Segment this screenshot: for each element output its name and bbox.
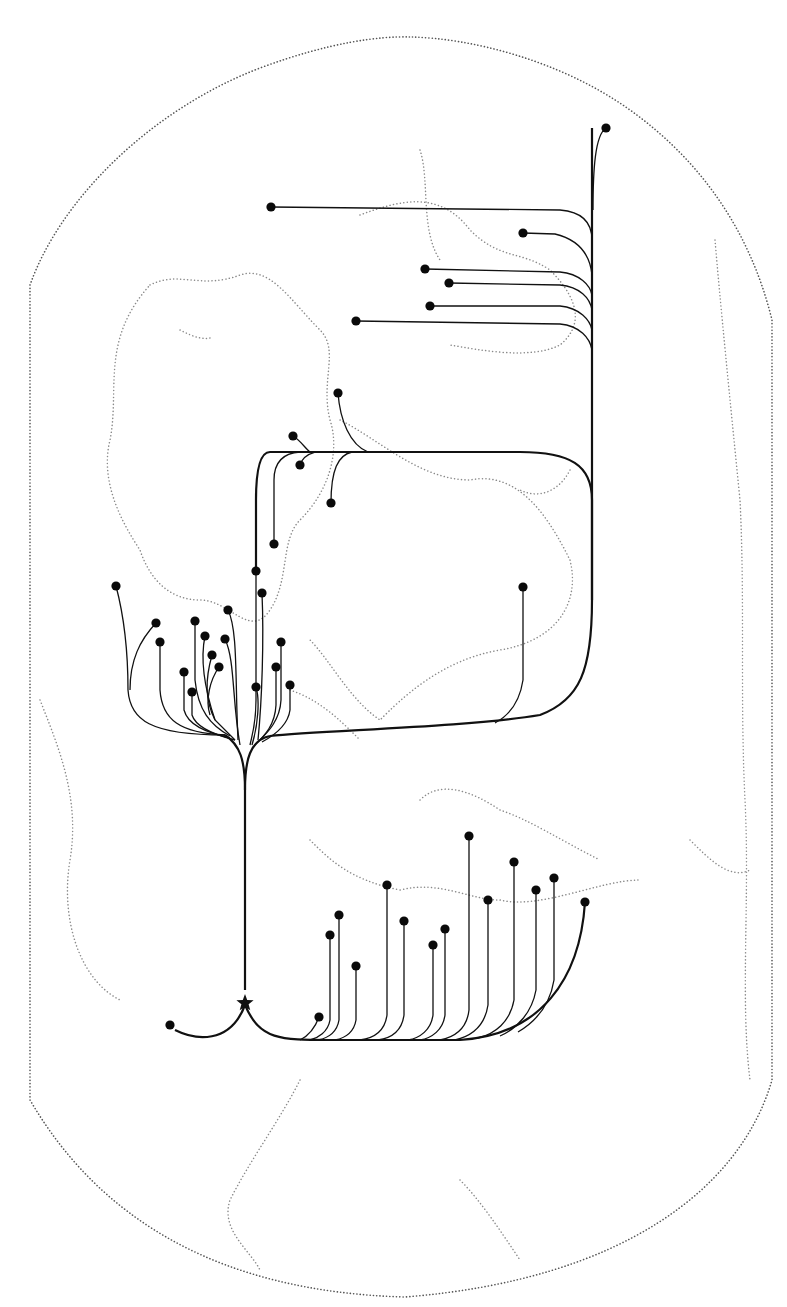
route-branch: [335, 966, 356, 1040]
route-branch: [356, 321, 592, 350]
destination-node: [351, 961, 360, 970]
destination-node: [483, 895, 492, 904]
destination-node: [420, 264, 429, 273]
route-branches: [116, 128, 606, 1040]
destination-node: [509, 857, 518, 866]
route-branch: [203, 636, 235, 740]
route-branch: [523, 233, 592, 275]
coastline: [360, 202, 575, 353]
route-map: [0, 0, 787, 1307]
destination-node: [207, 650, 216, 659]
coastline: [310, 840, 640, 902]
destination-node: [326, 498, 335, 507]
destination-node: [214, 662, 223, 671]
destination-node: [271, 662, 280, 671]
destination-node: [288, 431, 297, 440]
route-branch: [408, 945, 433, 1040]
destination-node: [425, 301, 434, 310]
destination-node: [155, 637, 164, 646]
destination-node: [151, 618, 160, 627]
route-branch: [360, 885, 387, 1040]
destination-node: [179, 667, 188, 676]
destination-node: [531, 885, 540, 894]
coastline: [228, 1080, 300, 1270]
route-trunk: [225, 735, 245, 790]
destination-node: [187, 687, 196, 696]
destination-node: [601, 123, 610, 132]
destination-node: [428, 940, 437, 949]
route-branch: [495, 587, 523, 723]
route-branch: [250, 571, 256, 745]
destination-node: [314, 1012, 323, 1021]
destination-node: [580, 897, 589, 906]
route-branch: [310, 935, 330, 1040]
route-branch: [430, 306, 592, 330]
coastline: [420, 150, 440, 260]
destination-node: [333, 388, 342, 397]
destination-node: [223, 605, 232, 614]
destination-node: [518, 228, 527, 237]
route-branch: [258, 593, 263, 740]
destination-node: [325, 930, 334, 939]
destination-node: [111, 581, 120, 590]
destination-node: [440, 924, 449, 933]
route-trunk: [175, 902, 585, 1040]
route-branch: [331, 452, 352, 503]
destination-node: [269, 539, 278, 548]
coastline: [715, 240, 750, 1080]
destination-node: [382, 880, 391, 889]
coastline: [180, 330, 210, 338]
destination-nodes: [111, 123, 610, 1029]
map-frame-outline: [30, 37, 772, 1297]
destination-node: [200, 631, 209, 640]
coastline: [107, 273, 333, 621]
route-branch: [225, 639, 240, 745]
destination-node: [257, 588, 266, 597]
route-trunk: [245, 736, 270, 990]
route-branch: [455, 900, 488, 1040]
route-trunks: [175, 128, 592, 1040]
coastline: [690, 840, 750, 873]
coastline: [460, 1180, 520, 1260]
destination-node: [518, 582, 527, 591]
route-branch: [593, 128, 606, 210]
destination-node: [549, 873, 558, 882]
destination-node: [444, 278, 453, 287]
coastlines: [40, 150, 750, 1270]
route-branch: [478, 862, 514, 1038]
destination-node: [220, 634, 229, 643]
destination-node: [251, 566, 260, 575]
destination-node: [285, 680, 294, 689]
destination-node: [399, 916, 408, 925]
destination-node: [276, 637, 285, 646]
coastline: [310, 420, 572, 720]
destination-node: [165, 1020, 174, 1029]
coastline: [420, 789, 600, 860]
destination-node: [190, 616, 199, 625]
route-branch: [378, 921, 404, 1040]
route-branch: [130, 623, 156, 690]
destination-node: [295, 460, 304, 469]
destination-node: [351, 316, 360, 325]
route-branch: [338, 393, 368, 452]
destination-node: [464, 831, 473, 840]
destination-node: [266, 202, 275, 211]
destination-node: [251, 682, 260, 691]
destination-node: [334, 910, 343, 919]
coastline: [40, 700, 120, 1000]
route-branch: [271, 207, 592, 240]
route-branch: [500, 890, 536, 1036]
coastline: [520, 470, 570, 494]
route-trunk: [256, 452, 592, 736]
